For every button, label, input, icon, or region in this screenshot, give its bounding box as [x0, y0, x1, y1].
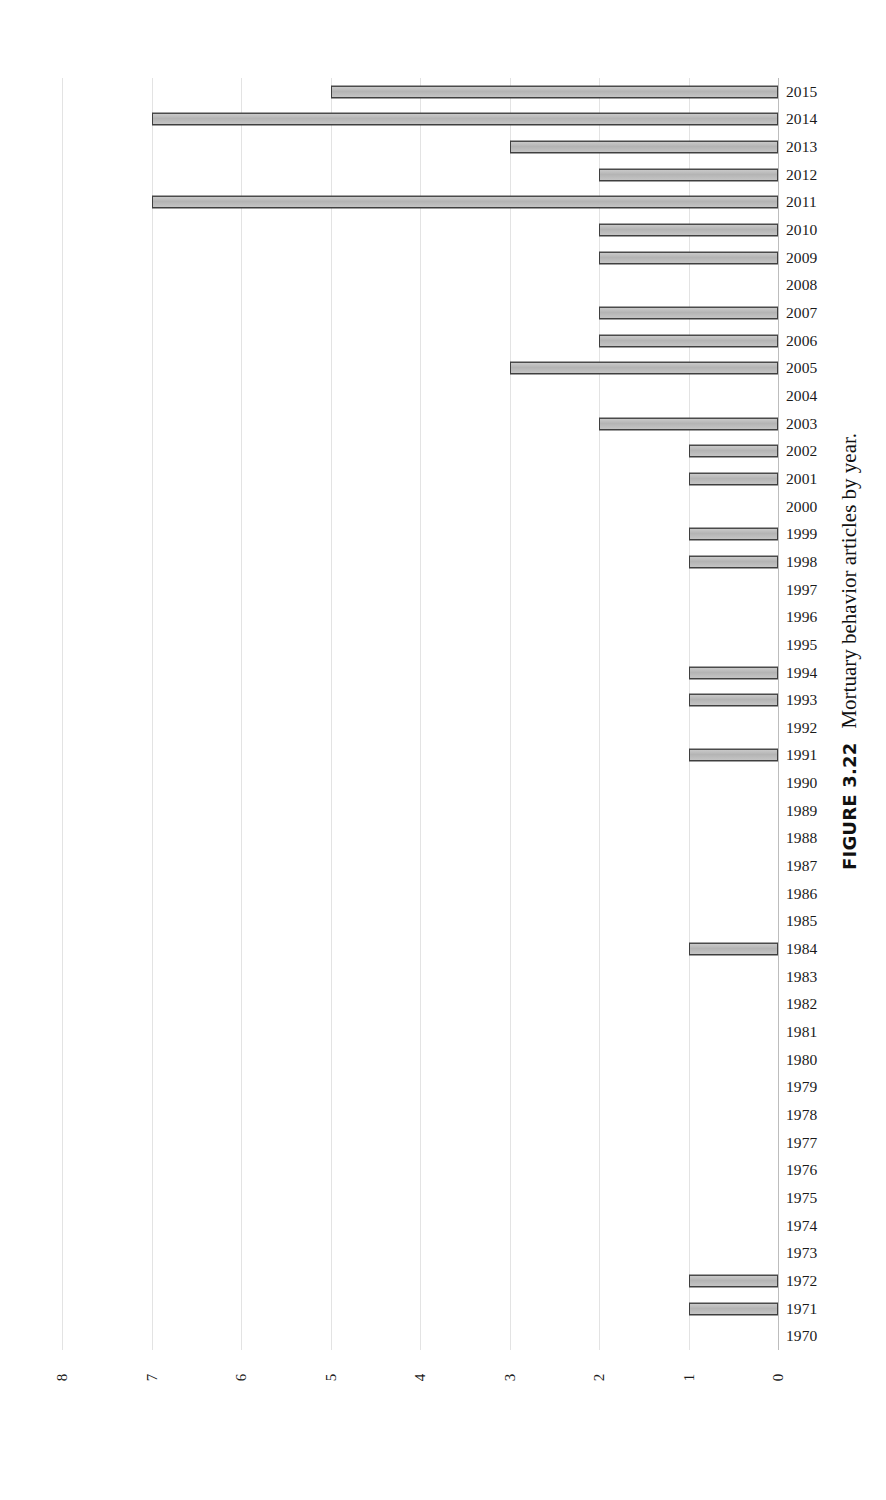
- bar[interactable]: [331, 85, 779, 98]
- year-label: 2005: [786, 361, 844, 377]
- bar-row: [62, 1046, 778, 1074]
- value-tick-label: 4: [413, 1366, 428, 1390]
- year-label: 1975: [786, 1190, 844, 1206]
- bar[interactable]: [689, 1274, 779, 1287]
- bar-row: [62, 908, 778, 936]
- bar-row: [62, 272, 778, 300]
- bar-row: [62, 1322, 778, 1350]
- bar-row: [62, 410, 778, 438]
- year-label: 2002: [786, 444, 844, 460]
- bar[interactable]: [689, 472, 779, 485]
- year-label: 2009: [786, 250, 844, 266]
- bar-row: [62, 576, 778, 604]
- year-label: 2000: [786, 499, 844, 515]
- bar[interactable]: [599, 334, 778, 347]
- year-label: 2012: [786, 167, 844, 183]
- year-label: 2008: [786, 278, 844, 294]
- bar-row: [62, 437, 778, 465]
- bar-row: [62, 493, 778, 521]
- bar-row: [62, 1267, 778, 1295]
- bar-row: [62, 603, 778, 631]
- year-label: 1977: [786, 1135, 844, 1151]
- bar[interactable]: [510, 141, 779, 154]
- value-tick-label: 3: [502, 1366, 517, 1390]
- year-label: 1971: [786, 1301, 844, 1317]
- year-label: 1981: [786, 1024, 844, 1040]
- year-label: 1974: [786, 1218, 844, 1234]
- bar-row: [62, 880, 778, 908]
- figure-caption-label: FIGURE 3.22: [839, 743, 860, 870]
- year-label: 2004: [786, 388, 844, 404]
- value-tick-label: 5: [323, 1366, 338, 1390]
- value-tick-label: 6: [234, 1366, 249, 1390]
- year-label: 1984: [786, 941, 844, 957]
- bar-series: [62, 78, 778, 1350]
- bar[interactable]: [599, 168, 778, 181]
- value-axis-line: [778, 78, 779, 1350]
- bar[interactable]: [599, 417, 778, 430]
- year-label: 1978: [786, 1107, 844, 1123]
- bar[interactable]: [689, 445, 779, 458]
- bar-row: [62, 659, 778, 687]
- year-label: 1994: [786, 665, 844, 681]
- year-label: 1993: [786, 692, 844, 708]
- bar-row: [62, 1073, 778, 1101]
- year-label: 2013: [786, 139, 844, 155]
- year-label: 1976: [786, 1163, 844, 1179]
- bar-row: [62, 299, 778, 327]
- year-label: 2015: [786, 84, 844, 100]
- year-label: 1985: [786, 914, 844, 930]
- bar-row: [62, 769, 778, 797]
- bar-row: [62, 1184, 778, 1212]
- value-axis-labels: 876543210: [0, 1362, 886, 1422]
- value-tick-label: 1: [681, 1366, 696, 1390]
- bar-row: [62, 714, 778, 742]
- figure-caption: FIGURE 3.22Mortuary behavior articles by…: [838, 350, 861, 870]
- value-tick-label: 2: [592, 1366, 607, 1390]
- year-label: 1983: [786, 969, 844, 985]
- year-label: 2010: [786, 222, 844, 238]
- bar-row: [62, 825, 778, 853]
- bar[interactable]: [152, 113, 779, 126]
- bar-row: [62, 1129, 778, 1157]
- year-label: 1996: [786, 609, 844, 625]
- year-label: 2003: [786, 416, 844, 432]
- year-label: 1987: [786, 858, 844, 874]
- year-label: 1973: [786, 1245, 844, 1261]
- bar[interactable]: [599, 224, 778, 237]
- bar-row: [62, 216, 778, 244]
- bar-row: [62, 935, 778, 963]
- bar-row: [62, 520, 778, 548]
- bar[interactable]: [689, 749, 779, 762]
- year-label: 1997: [786, 582, 844, 598]
- bar[interactable]: [689, 555, 779, 568]
- value-tick-label: 8: [55, 1366, 70, 1390]
- bar[interactable]: [689, 694, 779, 707]
- year-label: 1999: [786, 527, 844, 543]
- year-label: 1972: [786, 1273, 844, 1289]
- bar[interactable]: [689, 1302, 779, 1315]
- year-label: 1988: [786, 831, 844, 847]
- bar-row: [62, 382, 778, 410]
- year-label: 2007: [786, 305, 844, 321]
- year-label: 2014: [786, 112, 844, 128]
- year-label: 1986: [786, 886, 844, 902]
- bar[interactable]: [510, 362, 779, 375]
- bar[interactable]: [599, 307, 778, 320]
- bar[interactable]: [152, 196, 779, 209]
- bar-row: [62, 1295, 778, 1323]
- bar[interactable]: [689, 528, 779, 541]
- year-label: 1990: [786, 775, 844, 791]
- bar-row: [62, 244, 778, 272]
- bar[interactable]: [599, 251, 778, 264]
- year-label: 1992: [786, 720, 844, 736]
- year-label: 1995: [786, 637, 844, 653]
- bar-row: [62, 991, 778, 1019]
- bar[interactable]: [689, 666, 779, 679]
- bar-row: [62, 133, 778, 161]
- bar-row: [62, 465, 778, 493]
- bar[interactable]: [689, 943, 779, 956]
- bar-row: [62, 1018, 778, 1046]
- year-label: 1989: [786, 803, 844, 819]
- figure-container: 2015201420132012201120102009200820072006…: [0, 0, 886, 1500]
